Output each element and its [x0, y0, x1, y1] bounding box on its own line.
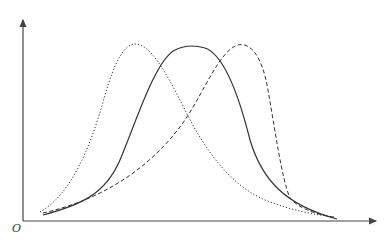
distribution-diagram: O	[0, 0, 391, 243]
solid-curve	[43, 46, 337, 219]
origin-label: O	[12, 222, 21, 235]
dashed-curve	[43, 45, 333, 217]
diagram-canvas	[0, 0, 391, 243]
dotted-curve	[40, 44, 335, 217]
